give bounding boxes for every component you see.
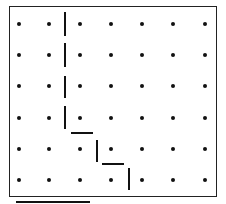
grid-dot: [17, 178, 21, 182]
grid-dot: [109, 22, 113, 26]
grid-dot: [109, 147, 113, 151]
grid-dot: [78, 22, 82, 26]
grid-dot: [78, 53, 82, 57]
grid-dot: [17, 84, 21, 88]
grid-dot: [47, 147, 51, 151]
grid-dot: [109, 84, 113, 88]
grid-dot: [140, 22, 144, 26]
grid-dot: [109, 178, 113, 182]
grid-dot: [203, 53, 207, 57]
grid-dot: [47, 178, 51, 182]
grid-dot: [171, 147, 175, 151]
grid-dot: [78, 178, 82, 182]
grid-dot: [140, 116, 144, 120]
grid-dot: [17, 22, 21, 26]
grid-dot: [171, 116, 175, 120]
grid-dot: [47, 53, 51, 57]
grid-dot: [17, 147, 21, 151]
grid-dot: [171, 84, 175, 88]
grid-dot: [140, 84, 144, 88]
grid-dot: [140, 53, 144, 57]
grid-dot: [47, 116, 51, 120]
grid-dot: [78, 147, 82, 151]
grid-dot: [140, 147, 144, 151]
dot-grid-diagram: [0, 0, 226, 204]
grid-dot: [203, 84, 207, 88]
grid-dot: [140, 178, 144, 182]
grid-dot: [171, 178, 175, 182]
grid-dot: [203, 22, 207, 26]
grid-dot: [47, 22, 51, 26]
grid-dot: [109, 116, 113, 120]
grid-dot: [171, 22, 175, 26]
grid-dot: [78, 84, 82, 88]
grid-dot: [203, 116, 207, 120]
grid-dot: [47, 84, 51, 88]
grid-dot: [17, 53, 21, 57]
grid-dot: [109, 53, 113, 57]
grid-dot: [17, 116, 21, 120]
grid-dot: [203, 178, 207, 182]
grid-dot: [171, 53, 175, 57]
grid-dot: [78, 116, 82, 120]
grid-dot: [203, 147, 207, 151]
